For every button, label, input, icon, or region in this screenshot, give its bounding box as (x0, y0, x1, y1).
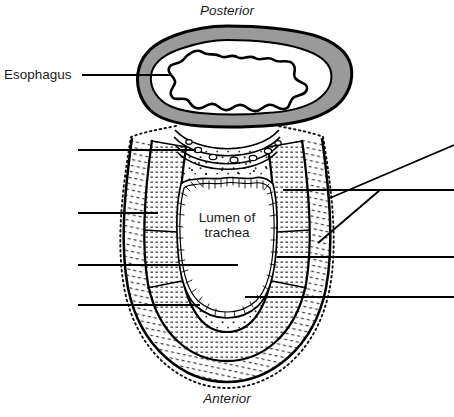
label-lumen-of-trachea: Lumen of trachea (184, 210, 270, 240)
anatomy-illustration (0, 0, 454, 417)
esophagus (137, 26, 351, 127)
label-lumen-line2: trachea (184, 225, 270, 240)
orientation-label-anterior: Anterior (0, 391, 454, 406)
orientation-label-posterior: Posterior (0, 3, 454, 18)
diagram-canvas: Posterior Anterior Esophagus Lumen of tr… (0, 0, 454, 417)
label-esophagus: Esophagus (4, 67, 72, 82)
label-lumen-line1: Lumen of (184, 210, 270, 225)
